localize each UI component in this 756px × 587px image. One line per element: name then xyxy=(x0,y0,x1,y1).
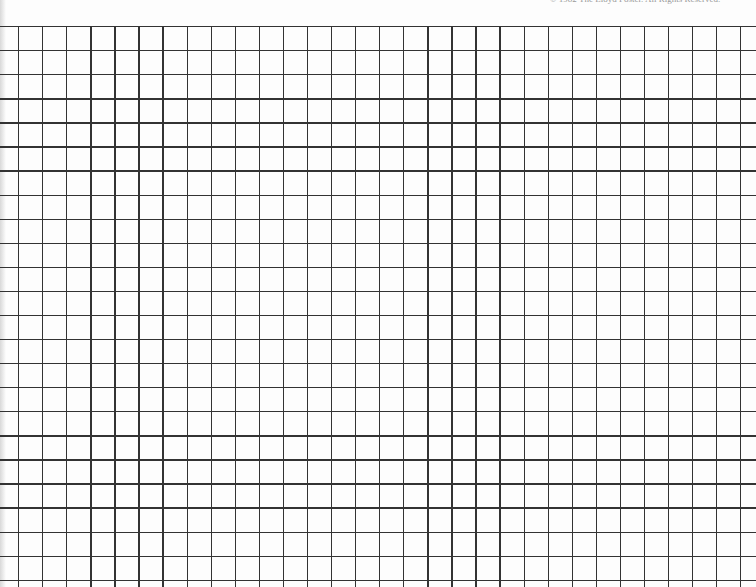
grid-vertical-line xyxy=(331,26,332,587)
grid-vertical-line xyxy=(18,26,19,587)
grid-vertical-line xyxy=(427,26,428,587)
grid-vertical-line xyxy=(235,26,236,587)
grid-vertical-line xyxy=(692,26,693,587)
grid-vertical-line xyxy=(90,26,91,587)
grid-vertical-line xyxy=(403,26,404,587)
grid-vertical-line xyxy=(524,26,525,587)
grid-vertical-line xyxy=(283,26,284,587)
grid-vertical-line xyxy=(42,26,43,587)
grid-vertical-line xyxy=(716,26,717,587)
grid-vertical-line xyxy=(499,26,500,587)
grid-vertical-line xyxy=(355,26,356,587)
grid-vertical-line xyxy=(740,26,741,587)
grid-vertical-line xyxy=(668,26,669,587)
grid-vertical-line xyxy=(66,26,67,587)
grid-vertical-line xyxy=(162,26,163,587)
grid-vertical-line xyxy=(620,26,621,587)
grid-vertical-line xyxy=(451,26,452,587)
grid-vertical-line xyxy=(596,26,597,587)
grid-vertical-line xyxy=(259,26,260,587)
grid-vertical-line xyxy=(307,26,308,587)
grid-vertical-line xyxy=(211,26,212,587)
grid-vertical-line xyxy=(548,26,549,587)
grid-vertical-line xyxy=(138,26,139,587)
grid-vertical-line xyxy=(644,26,645,587)
grid-vertical-line xyxy=(379,26,380,587)
grid-vertical-line xyxy=(114,26,115,587)
grid-vertical-line xyxy=(187,26,188,587)
grid-vertical-line xyxy=(572,26,573,587)
grid-vertical-line xyxy=(475,26,476,587)
grid xyxy=(0,0,756,587)
